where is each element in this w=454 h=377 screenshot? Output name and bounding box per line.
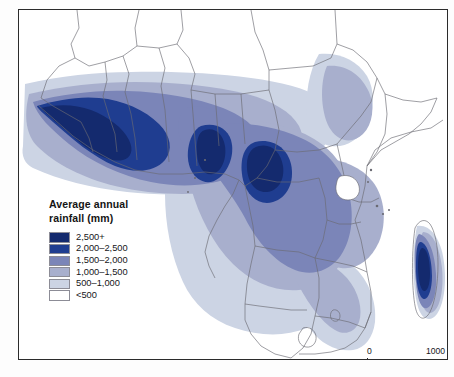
legend-label-under-500: <500 (76, 291, 97, 300)
legend-swatch-1000-1500 (49, 267, 70, 277)
legend-title-line2: rainfall (mm) (49, 212, 199, 226)
legend-swatch-under-500 (49, 290, 70, 300)
legend-title: Average annual rainfall (mm) (49, 198, 199, 226)
legend-label-500-1000: 500–1,000 (76, 279, 120, 288)
scale-bar: 0 1000 km (367, 346, 448, 360)
legend-swatch-500-1000 (49, 279, 70, 289)
legend-swatch-2500-plus (49, 232, 70, 242)
legend-title-line1: Average annual (49, 198, 199, 212)
legend-label-2000-2500: 2,000–2,500 (76, 244, 128, 253)
africa-rainfall-map (19, 10, 448, 360)
rainfall-map-figure: Average annual rainfall (mm) 2,500+ 2,00… (0, 0, 454, 377)
scale-bar-labels: 0 1000 km (367, 346, 448, 357)
legend-item-2000-2500: 2,000–2,500 (49, 243, 199, 255)
legend-item-under-500: <500 (49, 290, 199, 302)
scale-bar-zero-label: 0 (367, 346, 372, 356)
legend-item-1000-1500: 1,000–1,500 (49, 267, 199, 279)
legend-swatch-1500-2000 (49, 256, 70, 266)
legend-item-500-1000: 500–1,000 (49, 278, 199, 290)
legend-label-2500-plus: 2,500+ (76, 233, 105, 242)
legend-item-1500-2000: 1,500–2,000 (49, 255, 199, 267)
legend-label-1000-1500: 1,000–1,500 (76, 268, 128, 277)
legend-swatch-2000-2500 (49, 244, 70, 254)
scale-bar-max-label: 1000 km (426, 346, 448, 356)
scale-bar-bracket (367, 358, 448, 360)
map-legend: Average annual rainfall (mm) 2,500+ 2,00… (49, 198, 199, 301)
legend-item-2500-plus: 2,500+ (49, 232, 199, 244)
legend-label-1500-2000: 1,500–2,000 (76, 256, 128, 265)
map-frame: Average annual rainfall (mm) 2,500+ 2,00… (18, 9, 448, 360)
